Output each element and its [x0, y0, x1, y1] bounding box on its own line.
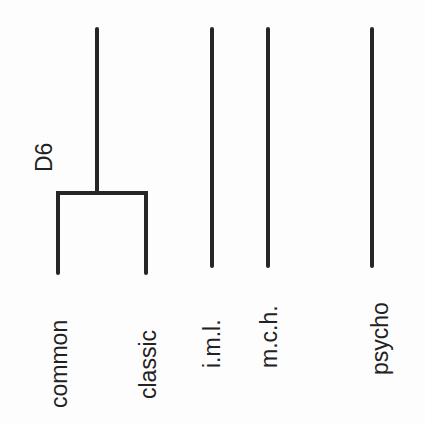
leaf-label-psycho: psycho	[367, 302, 393, 375]
d6-bracket	[58, 193, 146, 273]
node-label-d6: D6	[31, 143, 57, 172]
dendrogram: D6 common classic i.m.l. m.c.h. psycho	[0, 0, 425, 424]
leaf-label-classic: classic	[135, 330, 161, 399]
leaf-label-iml: i.m.l.	[199, 319, 225, 368]
leaf-label-common: common	[46, 320, 72, 408]
leaf-label-mch: m.c.h.	[256, 305, 282, 368]
